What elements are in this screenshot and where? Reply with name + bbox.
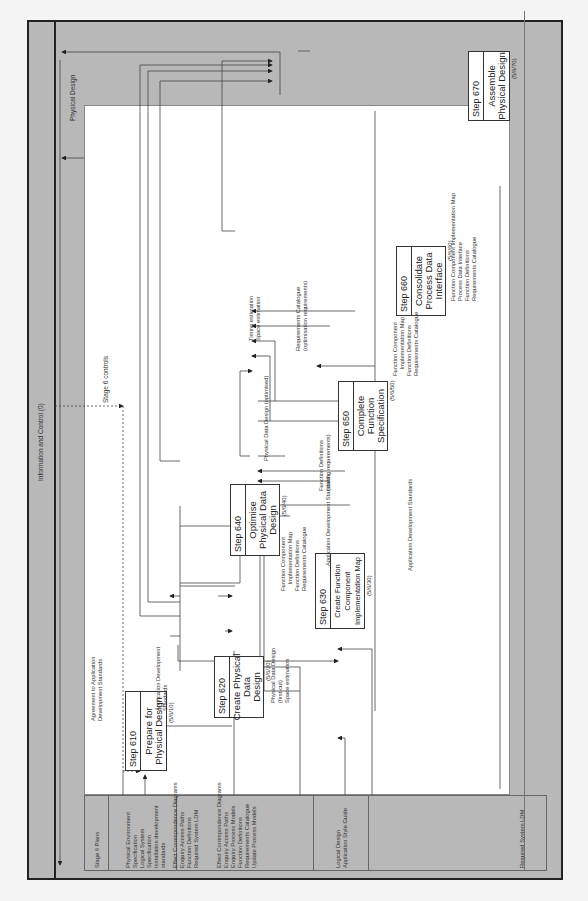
step-620[interactable]: Step 620 Create Physical Data Design (214, 656, 264, 718)
step-number: Step 670 (469, 52, 484, 120)
label-func-defs-sorting: Function Definitions (sorting requiremen… (318, 434, 332, 491)
physical-design-output-label: Physical Design (69, 75, 77, 121)
step-number: Step 610 (126, 692, 141, 770)
step-number: Step 660 (397, 247, 412, 315)
step-title: Create Physical Data Design (230, 657, 264, 717)
step-title: Consolidate Process Data Interface (412, 247, 446, 315)
label-pdd-optimised: Physical Data Design (optimised) (263, 376, 270, 461)
label-640-inputs: Function Component Implementation Map Fu… (280, 527, 308, 591)
step-670-ref: (5/6/70) (511, 58, 517, 79)
diagram-canvas: Information and Control (0) Stage 6 Plan… (0, 0, 588, 901)
step-number: Step 650 (339, 382, 354, 450)
step-title: Complete Function Specification (354, 382, 388, 450)
step-number: Step 620 (215, 657, 230, 717)
step-number: Step 640 (231, 485, 246, 555)
label-650-output: Function Component Implementation Map Fu… (392, 312, 420, 376)
step-title: Assemble Physical Design (484, 52, 509, 120)
label-req-cat-opt: Requirements Catalogue (optimisation req… (295, 281, 309, 351)
flow-connectors (0, 0, 588, 901)
stage6-controls-label: Stage 6 controls (102, 356, 110, 403)
step-650-ref: (5/6/50) (389, 380, 395, 401)
step-title: Create Function Component Implementation… (331, 554, 365, 628)
step-650[interactable]: Step 650 Complete Function Specification (338, 381, 388, 451)
label-620-output: Physical Data Design (first-cut) Space e… (270, 648, 291, 703)
step-640-ref: (5/6/40) (281, 495, 287, 516)
step-640[interactable]: Step 640 Optimise Physical Data Design (230, 484, 280, 556)
step-title: Optimise Physical Data Design (246, 485, 280, 555)
step-630[interactable]: Step 630 Create Function Component Imple… (315, 553, 365, 629)
step-670[interactable]: Step 670 Assemble Physical Design (468, 51, 510, 121)
label-agreement: Agreement to Application Development Sta… (90, 657, 104, 721)
label-app-dev-standards-3: Application Development Standards (407, 479, 414, 571)
step-630-ref: (5/6/30) (366, 575, 372, 596)
label-timing-estimation: Timing estimation Space estimation (248, 296, 262, 341)
step-660[interactable]: Step 660 Consolidate Process Data Interf… (396, 246, 446, 316)
label-660-output: Function Component Implementation Map Pr… (450, 193, 478, 301)
label-app-dev-standards-1: Application Development Standards (155, 647, 169, 711)
